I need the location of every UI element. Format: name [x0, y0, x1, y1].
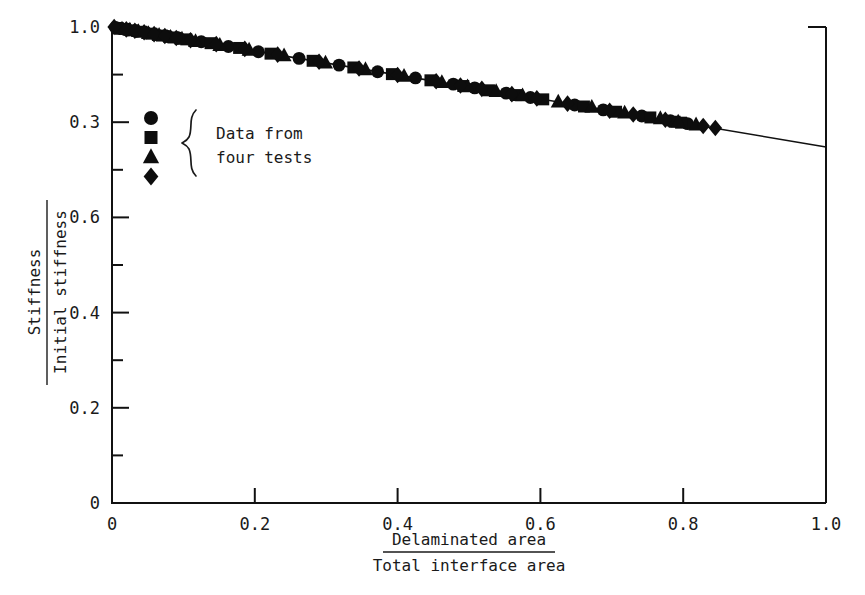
y-axis-title-denominator: Initial stiffness — [51, 210, 70, 374]
x-axis-tick-label: 0 — [107, 514, 117, 534]
x-axis-title-numerator: Delaminated area — [392, 530, 546, 549]
y-axis-tick-label: 0.3 — [69, 112, 100, 132]
legend-curly-brace — [182, 110, 196, 176]
data-point-diamond — [709, 120, 723, 137]
chart-canvas: 00.20.40.60.31.0 00.20.40.60.81.0 Delami… — [0, 0, 865, 595]
x-axis-tick-label: 0.8 — [668, 514, 699, 534]
data-point-circle — [293, 52, 306, 65]
y-axis-tick-label: 0.6 — [69, 207, 100, 227]
y-axis-tick-label: 1.0 — [69, 17, 100, 37]
legend-marker-square — [145, 131, 158, 144]
legend-marker-list — [143, 111, 159, 186]
data-point-circle — [333, 59, 346, 72]
y-axis-title: Stiffness Initial stiffness — [25, 200, 70, 385]
legend-marker-circle — [144, 111, 158, 125]
legend-label-line2: four tests — [216, 148, 312, 167]
x-axis-title: Delaminated area Total interface area — [373, 530, 566, 575]
y-axis-tick-label: 0.4 — [69, 303, 100, 323]
y-axis-tick-label: 0 — [90, 493, 100, 513]
legend-marker-diamond — [144, 168, 159, 186]
figure-root: 00.20.40.60.31.0 00.20.40.60.81.0 Delami… — [0, 0, 865, 595]
x-axis-ticks — [255, 488, 683, 503]
legend: Data from four tests — [143, 110, 312, 186]
data-point-diamond — [696, 118, 710, 135]
x-axis-title-denominator: Total interface area — [373, 556, 566, 575]
legend-marker-triangle — [143, 148, 159, 163]
x-axis-tick-label: 1.0 — [811, 514, 842, 534]
y-axis-tick-labels: 00.20.40.60.31.0 — [69, 17, 100, 513]
y-axis-tick-label: 0.2 — [69, 398, 100, 418]
data-point-circle — [371, 65, 384, 78]
legend-label-line1: Data from — [216, 124, 303, 143]
x-axis-tick-label: 0.2 — [239, 514, 270, 534]
y-axis-title-numerator: Stiffness — [25, 249, 44, 336]
y-axis-ticks — [112, 27, 129, 455]
data-markers — [107, 19, 722, 136]
data-point-circle — [409, 71, 422, 84]
plot-frame — [112, 27, 826, 503]
